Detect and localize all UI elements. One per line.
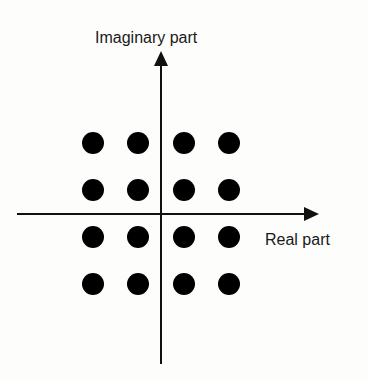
constellation-point — [218, 226, 240, 248]
constellation-point — [82, 179, 104, 201]
constellation-point — [127, 179, 149, 201]
imaginary-axis-arrow-icon — [154, 51, 168, 66]
constellation-point — [173, 179, 195, 201]
constellation-point — [173, 226, 195, 248]
constellation-point — [82, 226, 104, 248]
constellation-point — [173, 132, 195, 154]
constellation-point — [218, 179, 240, 201]
constellation-point — [82, 273, 104, 295]
constellation-point — [127, 226, 149, 248]
constellation-point — [127, 132, 149, 154]
imaginary-axis-label: Imaginary part — [95, 29, 198, 46]
imaginary-axis — [154, 51, 168, 364]
constellation-point — [218, 132, 240, 154]
constellation-point — [218, 273, 240, 295]
constellation-point — [173, 273, 195, 295]
diagram-svg: Imaginary part Real part — [0, 0, 368, 381]
constellation-point — [82, 132, 104, 154]
real-axis-arrow-icon — [304, 207, 319, 221]
real-axis-label: Real part — [265, 231, 330, 248]
real-axis — [17, 207, 319, 221]
constellation-diagram: Imaginary part Real part — [0, 0, 368, 381]
constellation-point — [127, 273, 149, 295]
